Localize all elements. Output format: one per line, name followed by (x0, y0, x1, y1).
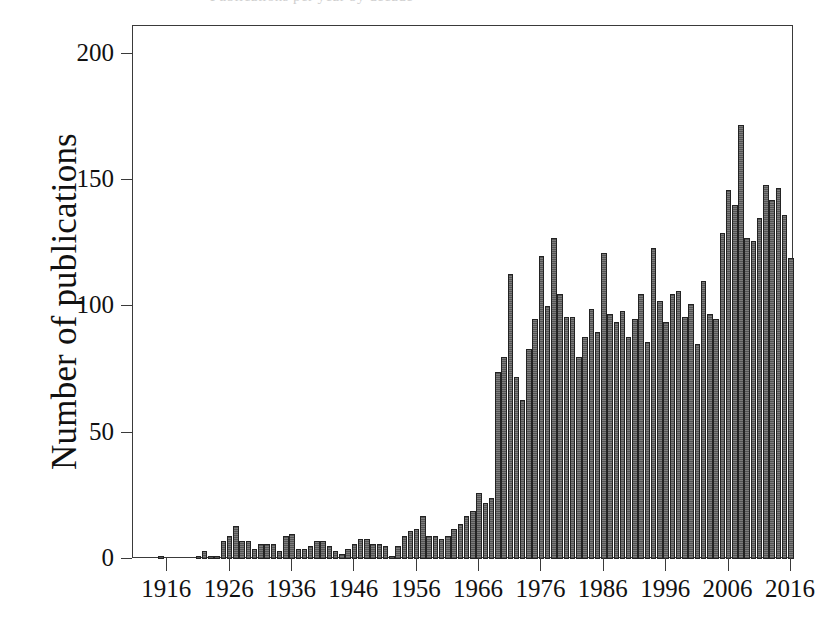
bar (751, 241, 756, 559)
y-tick-mark (121, 558, 132, 559)
bar (320, 541, 325, 559)
bar (514, 377, 519, 559)
x-tick-mark (665, 558, 666, 571)
bar (489, 498, 494, 559)
bar (757, 218, 762, 559)
x-tick-mark (416, 558, 417, 571)
bar (582, 337, 587, 559)
y-tick-label: 0 (2, 545, 114, 570)
bar (701, 281, 706, 559)
bar (732, 205, 737, 559)
bar (389, 556, 394, 559)
bar (327, 546, 332, 559)
bar (508, 274, 513, 559)
bar (246, 541, 251, 559)
y-tick-label: 50 (2, 419, 114, 444)
bar (289, 534, 294, 559)
top-cut-caption-strip: Publications per year by decade (0, 0, 811, 10)
bar (402, 536, 407, 559)
plot-area (132, 25, 793, 558)
bar (252, 549, 257, 559)
bar (738, 125, 743, 559)
bar (345, 549, 350, 559)
bar (208, 556, 213, 559)
bar (632, 319, 637, 559)
bar (670, 294, 675, 559)
x-tick-mark (353, 558, 354, 571)
bar (277, 551, 282, 559)
bar (451, 529, 456, 559)
bar (707, 314, 712, 559)
x-tick-mark (790, 558, 791, 571)
x-tick-label: 1966 (453, 576, 503, 601)
x-tick-label: 1916 (141, 576, 191, 601)
bar (663, 322, 668, 559)
bar (526, 349, 531, 559)
x-tick-label: 1926 (204, 576, 254, 601)
bar (221, 541, 226, 559)
x-tick-label: 1936 (266, 576, 316, 601)
x-tick-label: 1976 (515, 576, 565, 601)
bar (651, 248, 656, 559)
bar (626, 337, 631, 559)
bar (445, 536, 450, 559)
bar (607, 314, 612, 559)
bar (682, 317, 687, 560)
bar (676, 291, 681, 559)
bar (352, 544, 357, 559)
bar (763, 185, 768, 559)
y-tick-label: 150 (2, 166, 114, 191)
bar (501, 357, 506, 559)
x-tick-mark (229, 558, 230, 571)
x-tick-mark (166, 558, 167, 571)
bar (420, 516, 425, 559)
bar (539, 256, 544, 559)
bar (720, 233, 725, 559)
bar (476, 493, 481, 559)
bar (314, 541, 319, 559)
bar (782, 215, 787, 559)
bar (408, 531, 413, 559)
bar (383, 546, 388, 559)
x-tick-label: 2016 (765, 576, 815, 601)
bar (551, 238, 556, 559)
bar (657, 301, 662, 559)
bar (333, 551, 338, 559)
y-tick-mark (121, 305, 132, 306)
y-tick-label: 100 (2, 292, 114, 317)
bar (788, 258, 793, 559)
bar (214, 556, 219, 559)
x-tick-label: 2006 (703, 576, 753, 601)
bar (495, 372, 500, 559)
bar (601, 253, 606, 559)
bar (713, 319, 718, 559)
bar (439, 539, 444, 559)
bar (744, 238, 749, 559)
bar (570, 317, 575, 560)
bar (296, 549, 301, 559)
bar (377, 544, 382, 559)
bar (414, 529, 419, 559)
bar (483, 503, 488, 559)
bar (595, 332, 600, 559)
bar (695, 344, 700, 559)
bar (370, 544, 375, 559)
bar (520, 400, 525, 559)
bar (532, 319, 537, 559)
bar (769, 200, 774, 559)
y-tick-mark (121, 53, 132, 54)
bar (620, 311, 625, 559)
x-tick-mark (291, 558, 292, 571)
bar (557, 294, 562, 559)
bar (233, 526, 238, 559)
y-tick-label: 200 (2, 40, 114, 65)
x-tick-mark (540, 558, 541, 571)
bar (433, 536, 438, 559)
bar (395, 546, 400, 559)
bar (302, 549, 307, 559)
bar (158, 556, 163, 559)
x-tick-label: 1996 (640, 576, 690, 601)
bar (726, 190, 731, 559)
bar (458, 524, 463, 559)
